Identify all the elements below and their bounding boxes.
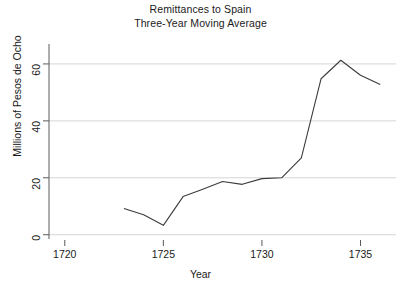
x-tick-label: 1735	[341, 248, 381, 260]
data-series-line	[124, 60, 380, 225]
gridlines-group	[49, 64, 396, 235]
y-tick-label: 40	[30, 121, 42, 143]
x-tick-label: 1725	[143, 248, 183, 260]
x-tick-label: 1720	[45, 248, 85, 260]
chart-figure: Remittances to Spain Three-Year Moving A…	[0, 0, 401, 286]
x-axis-label: Year	[0, 268, 401, 280]
y-tick-label: 0	[30, 235, 42, 257]
y-tick-label: 20	[30, 178, 42, 200]
tick-marks-group	[43, 64, 361, 246]
plot-area	[0, 0, 401, 286]
y-tick-label: 60	[30, 64, 42, 86]
x-tick-label: 1730	[242, 248, 282, 260]
